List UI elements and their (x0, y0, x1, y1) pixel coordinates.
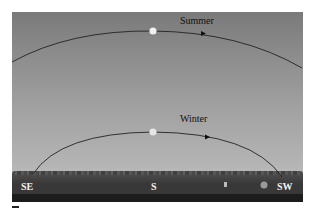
winter-arrow-icon (205, 135, 210, 140)
winter-sun-icon (149, 128, 156, 135)
sun-paths (0, 0, 314, 213)
winter-label: Winter (180, 113, 207, 124)
summer-sun-icon (149, 27, 156, 34)
direction-se: SE (21, 181, 33, 192)
winter-sun-path (33, 132, 282, 177)
setting-sun-icon (261, 182, 268, 189)
corner-mark (12, 206, 19, 208)
summer-sun-path (12, 31, 302, 68)
post (224, 182, 227, 187)
direction-sw: SW (277, 181, 293, 192)
summer-label: Summer (180, 15, 214, 26)
direction-s: S (151, 181, 157, 192)
